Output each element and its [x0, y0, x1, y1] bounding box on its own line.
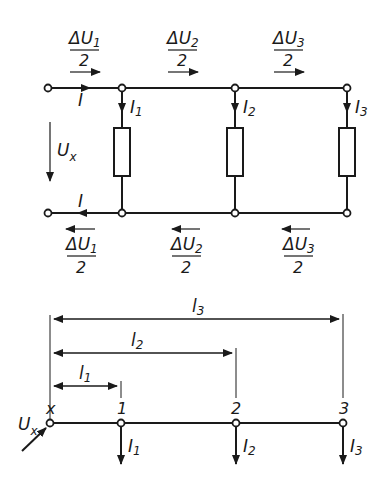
- drop-2-top-denominator: 2: [177, 51, 187, 70]
- drop-3-top-denominator: 2: [283, 51, 293, 70]
- resistor-3: [339, 128, 355, 176]
- node-icon: [119, 85, 126, 92]
- node-icon: [119, 210, 126, 217]
- point-1-icon: [118, 420, 125, 427]
- point-x-icon: [47, 420, 54, 427]
- dimension-l3-label: l3: [192, 296, 204, 318]
- drop-3-bottom-label: ΔU3: [281, 234, 315, 256]
- input-terminal-icon: [45, 85, 52, 92]
- drop-1-bottom-denominator: 2: [76, 258, 86, 277]
- voltage-label: Ux: [57, 140, 77, 164]
- dimension-l2-label: l2: [131, 330, 143, 352]
- source-voltage-label: Ux: [18, 414, 38, 438]
- resistor-2: [227, 128, 243, 176]
- node-icon: [344, 85, 351, 92]
- drop-1-top-label: ΔU1: [67, 28, 101, 50]
- drop-1-top-denominator: 2: [79, 51, 89, 70]
- drop-1-bottom-label: ΔU1: [64, 234, 98, 256]
- return-current-label: I: [78, 191, 83, 211]
- branch-2-current-label: I2: [243, 97, 256, 119]
- distribution-line-diagram: ΔU1 2 ΔU2 2 ΔU3 2 ΔU1 2 ΔU2 2 ΔU3 2 I I …: [0, 0, 392, 486]
- point-1-label: 1: [117, 399, 127, 418]
- node-icon: [232, 210, 239, 217]
- load-3-label: I3: [350, 436, 363, 458]
- drop-2-bottom-denominator: 2: [181, 258, 191, 277]
- load-2-label: I2: [243, 436, 256, 458]
- drop-3-top-label: ΔU3: [271, 28, 305, 50]
- circuit-labels: ΔU1 2 ΔU2 2 ΔU3 2 ΔU1 2 ΔU2 2 ΔU3 2 I I …: [57, 28, 368, 277]
- node-icon: [232, 85, 239, 92]
- point-x-label: x: [45, 399, 56, 418]
- line-model-labels: l3 l2 l1 x 1 2 3 Ux I1 I2 I3: [18, 296, 363, 458]
- point-3-icon: [340, 420, 347, 427]
- resistor-1: [114, 128, 130, 176]
- drop-2-top-label: ΔU2: [165, 28, 199, 50]
- line-model: [22, 314, 347, 464]
- branch-1-current-label: I1: [130, 97, 143, 119]
- node-icon: [344, 210, 351, 217]
- drop-2-bottom-label: ΔU2: [169, 234, 203, 256]
- drop-3-bottom-denominator: 2: [293, 258, 303, 277]
- point-3-label: 3: [339, 399, 349, 418]
- dimension-l1-label: l1: [79, 363, 91, 385]
- supply-current-label: I: [78, 90, 83, 110]
- branch-3-current-label: I3: [355, 97, 368, 119]
- return-terminal-icon: [45, 210, 52, 217]
- point-2-label: 2: [231, 399, 241, 418]
- circuit-schematic: [45, 50, 356, 256]
- load-1-label: I1: [128, 436, 141, 458]
- point-2-icon: [233, 420, 240, 427]
